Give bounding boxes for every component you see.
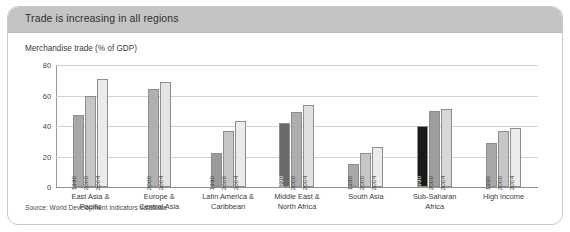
bar: 2004 — [303, 105, 314, 187]
bar-year-label: 1990 — [415, 176, 423, 191]
bar-group: 199020002004 — [56, 64, 125, 187]
bar-year-label: 2004 — [301, 176, 309, 191]
card-title: Trade is increasing in all regions — [25, 12, 179, 24]
card-header: Trade is increasing in all regions — [8, 7, 562, 33]
y-tick-40: 40 — [43, 122, 51, 131]
bar-year-label: 1990 — [277, 176, 285, 191]
bar-year-label: 2004 — [94, 176, 102, 191]
bar-group: 20002004 — [125, 64, 194, 187]
plot-area: 020406080 199020002004200020041990200020… — [56, 65, 538, 188]
bar-year-label: 2000 — [82, 176, 90, 191]
bar-year-label: 1990 — [484, 176, 492, 191]
y-tick-20: 20 — [43, 152, 51, 161]
category-label: South Asia — [331, 192, 400, 202]
bar-year-label: 1990 — [208, 176, 216, 191]
bar: 2004 — [97, 79, 108, 187]
bar-group: 199020002004 — [263, 64, 332, 187]
bar-year-label: 2000 — [427, 176, 435, 191]
bar: 2004 — [510, 128, 521, 187]
source-note: Source: World Development Indicators dat… — [25, 204, 167, 211]
bar-year-label: 2000 — [496, 176, 504, 191]
y-tick-80: 80 — [43, 61, 51, 70]
bar-year-label: 2000 — [289, 176, 297, 191]
bar-year-label: 2004 — [370, 176, 378, 191]
bar: 2004 — [441, 109, 452, 187]
category-label: High income — [469, 192, 538, 202]
bar-group: 199020002004 — [331, 64, 400, 187]
bar: 2000 — [85, 96, 96, 188]
bar-group: 199020002004 — [194, 64, 263, 187]
chart-card: Trade is increasing in all regions Merch… — [7, 6, 563, 225]
chart-subtitle: Merchandise trade (% of GDP) — [25, 44, 137, 53]
bar-year-label: 2004 — [157, 176, 165, 191]
x-axis — [56, 187, 538, 188]
bar-year-label: 1990 — [346, 176, 354, 191]
bar-year-label: 2004 — [439, 176, 447, 191]
bar: 2004 — [160, 82, 171, 187]
bar: 2004 — [235, 121, 246, 187]
bar-year-label: 2000 — [220, 176, 228, 191]
y-tick-0: 0 — [47, 183, 51, 192]
bar: 2000 — [148, 89, 159, 187]
bar-year-label: 2000 — [145, 176, 153, 191]
bar: 2004 — [372, 147, 383, 187]
category-label: Middle East & North Africa — [263, 192, 332, 211]
category-label: Latin America & Caribbean — [194, 192, 263, 211]
bar-year-label: 1990 — [70, 176, 78, 191]
y-tick-60: 60 — [43, 91, 51, 100]
bar-year-label: 2004 — [508, 176, 516, 191]
bar-year-label: 2000 — [358, 176, 366, 191]
bar-group: 199020002004 — [400, 64, 469, 187]
bar-group: 199020002004 — [469, 64, 538, 187]
bar-year-label: 2004 — [232, 176, 240, 191]
category-label: Sub-Saharan Africa — [400, 192, 469, 211]
